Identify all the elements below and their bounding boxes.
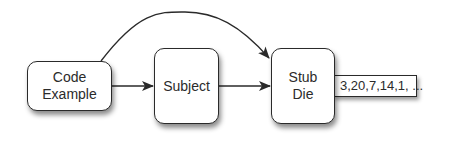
diagram-canvas: Code Example Subject 3,20,7,14,1, ... St… (0, 0, 464, 142)
node-subject: Subject (154, 48, 219, 124)
stub-die-output-sequence: 3,20,7,14,1, ... (333, 75, 417, 97)
node-code-example-label: Code Example (42, 69, 96, 103)
node-subject-label: Subject (163, 78, 210, 95)
node-stub-die: Stub Die (271, 48, 335, 124)
output-sequence-label: 3,20,7,14,1, ... (340, 78, 423, 93)
node-code-example: Code Example (27, 61, 112, 111)
node-stub-die-label: Stub Die (289, 69, 318, 103)
